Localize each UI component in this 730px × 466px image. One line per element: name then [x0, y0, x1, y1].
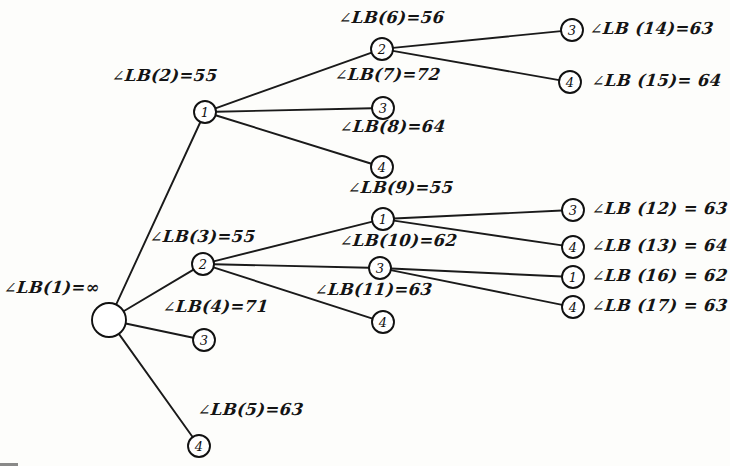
- node-lb2[interactable]: 1: [194, 101, 216, 123]
- lb-label-13: ∠LB (13) = 64: [591, 236, 729, 255]
- lb-label-6: ∠LB(6)=56: [338, 8, 446, 27]
- edge-lb6-to-lb14: [393, 31, 561, 48]
- root-node[interactable]: [92, 303, 126, 337]
- branch-and-bound-tree-figure: 1234234134343414 ∠LB(1)=∞∠LB(2)=55∠LB(3)…: [0, 0, 730, 466]
- node-lb16-label: 1: [569, 270, 577, 285]
- node-lb11-label: 4: [378, 315, 387, 330]
- lb-label-5: ∠LB(5)=63: [197, 400, 305, 419]
- lb-label-15: ∠LB (15)= 64: [591, 71, 723, 90]
- lb-label-12-text: LB (12) = 63: [604, 199, 729, 218]
- lb-label-12: ∠LB (12) = 63: [591, 199, 729, 218]
- lb-label-3: ∠LB(3)=55: [149, 227, 257, 246]
- node-lb4[interactable]: 3: [193, 329, 215, 351]
- node-lb10-label: 3: [376, 261, 384, 276]
- lb-label-6-text: LB(6)=56: [351, 8, 446, 27]
- node-lb5-label: 4: [194, 439, 203, 454]
- lb-label-7-text: LB(7)=72: [347, 65, 442, 84]
- lb-label-8: ∠LB(8)=64: [339, 117, 447, 136]
- lb-label-16-text: LB (16) = 62: [604, 266, 729, 285]
- lb-label-2-text: LB(2)=55: [124, 66, 219, 85]
- lb-label-11: ∠LB(11)=63: [314, 280, 433, 299]
- node-lb12-label: 3: [569, 203, 577, 218]
- node-lb16[interactable]: 1: [562, 266, 584, 288]
- node-lb12[interactable]: 3: [562, 199, 584, 221]
- node-lb6-label: 2: [377, 42, 386, 57]
- lb-label-17: ∠LB (17) = 63: [591, 296, 729, 315]
- lb-label-14: ∠LB (14)=63: [589, 19, 715, 38]
- node-lb2-label: 1: [201, 105, 209, 120]
- lb-label-15-text: LB (15)= 64: [604, 71, 723, 90]
- node-lb7-label: 4: [377, 160, 386, 175]
- edge-root-to-lb2: [116, 122, 200, 305]
- lb-label-5-text: LB(5)=63: [210, 400, 305, 419]
- lb-label-8-text: LB(8)=64: [352, 117, 447, 136]
- edge-lb3-to-lb10: [214, 264, 369, 268]
- lb-label-9-text: LB(9)=55: [360, 178, 455, 197]
- node-lb6[interactable]: 2: [371, 38, 393, 60]
- lb-label-16: ∠LB (16) = 62: [591, 266, 729, 285]
- node-lb8[interactable]: 3: [372, 97, 394, 119]
- node-lb3[interactable]: 2: [192, 253, 214, 275]
- node-lb3-label: 2: [198, 257, 207, 272]
- node-lb13-label: 4: [568, 240, 577, 255]
- node-lb9-label: 1: [379, 212, 387, 227]
- node-lb4-label: 3: [200, 333, 208, 348]
- edge-root-to-lb5: [119, 334, 193, 437]
- node-lb7[interactable]: 4: [371, 156, 393, 178]
- lb-label-1-text: LB(1)=∞: [16, 278, 101, 297]
- lb-label-9: ∠LB(9)=55: [347, 178, 455, 197]
- lb-label-1: ∠LB(1)=∞: [3, 278, 101, 297]
- lb-label-4-text: LB(4)=71: [175, 297, 270, 316]
- lb-label-13-text: LB (13) = 64: [604, 236, 729, 255]
- root-node-circle[interactable]: [92, 303, 126, 337]
- node-lb5[interactable]: 4: [188, 435, 210, 457]
- node-lb15[interactable]: 4: [559, 71, 581, 93]
- lb-label-10: ∠LB(10)=62: [339, 231, 458, 250]
- lb-label-11-text: LB(11)=63: [327, 280, 434, 299]
- lb-label-4: ∠LB(4)=71: [162, 297, 270, 316]
- edge-root-to-lb4: [126, 324, 194, 338]
- node-lb9[interactable]: 1: [372, 208, 394, 230]
- lb-label-3-text: LB(3)=55: [162, 227, 257, 246]
- node-lb14-label: 3: [568, 23, 576, 38]
- node-lb17[interactable]: 4: [562, 296, 584, 318]
- node-lb13[interactable]: 4: [562, 236, 584, 258]
- node-lb10[interactable]: 3: [369, 257, 391, 279]
- lb-label-2: ∠LB(2)=55: [111, 66, 219, 85]
- lb-label-17-text: LB (17) = 63: [604, 296, 729, 315]
- lb-label-10-text: LB(10)=62: [352, 231, 459, 250]
- node-lb17-label: 4: [568, 300, 577, 315]
- node-lb11[interactable]: 4: [372, 311, 394, 333]
- edge-lb2-to-lb8: [216, 108, 372, 112]
- node-lb14[interactable]: 3: [561, 19, 583, 41]
- node-lb15-label: 4: [565, 75, 574, 90]
- lb-label-7: ∠LB(7)=72: [334, 65, 442, 84]
- node-lb8-label: 3: [379, 101, 387, 116]
- lb-label-14-text: LB (14)=63: [602, 19, 715, 38]
- edge-lb9-to-lb12: [394, 211, 562, 219]
